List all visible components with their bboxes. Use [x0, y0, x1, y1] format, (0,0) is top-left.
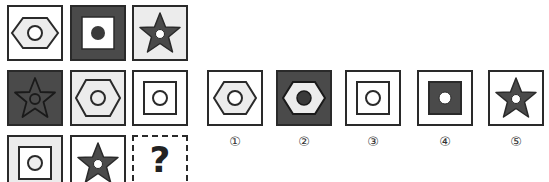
square-icon [419, 72, 471, 124]
grid-cell-1-1 [7, 5, 63, 61]
option-3[interactable] [345, 70, 401, 126]
star-icon [72, 137, 124, 182]
star-icon [490, 72, 542, 124]
hexagon-icon [209, 72, 261, 124]
question-mark: ? [134, 139, 186, 180]
option-4-label: ④ [417, 134, 473, 149]
star-icon [134, 7, 186, 59]
square-icon [9, 137, 61, 182]
option-5[interactable] [488, 70, 544, 126]
option-1-label: ① [207, 134, 263, 149]
grid-cell-1-2 [70, 5, 126, 61]
option-2-label: ② [276, 134, 332, 149]
option-3-label: ③ [345, 134, 401, 149]
square-icon [347, 72, 399, 124]
square-icon [72, 7, 124, 59]
grid-cell-2-2 [70, 70, 126, 126]
hexagon-icon [9, 7, 61, 59]
hexagon-icon [72, 72, 124, 124]
grid-cell-1-3 [132, 5, 188, 61]
option-1[interactable] [207, 70, 263, 126]
option-5-label: ⑤ [488, 134, 544, 149]
unknown-cell: ? [132, 135, 188, 182]
grid-cell-3-2 [70, 135, 126, 182]
option-4[interactable] [417, 70, 473, 126]
grid-cell-2-3 [132, 70, 188, 126]
hexagon-icon [278, 72, 330, 124]
option-2[interactable] [276, 70, 332, 126]
grid-cell-2-1 [7, 70, 63, 126]
grid-cell-3-1 [7, 135, 63, 182]
square-icon [134, 72, 186, 124]
star-icon [9, 72, 61, 124]
